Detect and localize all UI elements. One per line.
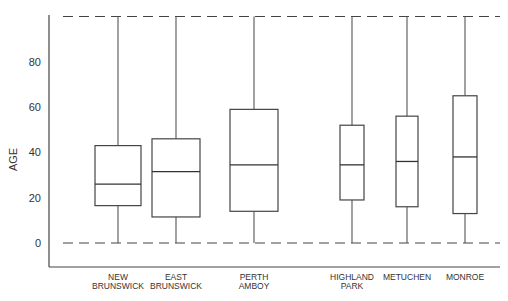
x-category-label: PARK (341, 281, 364, 291)
iqr-box (453, 96, 477, 214)
iqr-box (152, 139, 200, 217)
box-monroe (453, 17, 477, 244)
y-axis-title: AGE (7, 148, 19, 171)
x-category-label: BRUNSWICK (150, 281, 202, 291)
x-category-labels: NEWBRUNSWICKEASTBRUNSWICKPERTHAMBOYHIGHL… (92, 272, 484, 291)
x-category-label: AMBOY (239, 281, 270, 291)
reference-lines (63, 17, 500, 244)
y-tick-label: 40 (29, 146, 41, 158)
box-metuchen (396, 17, 418, 244)
x-category-label: METUCHEN (383, 272, 431, 282)
y-tick-labels: 020406080 (29, 56, 41, 249)
y-tick-label: 0 (35, 237, 41, 249)
y-tick-label: 80 (29, 56, 41, 68)
y-tick-label: 20 (29, 192, 41, 204)
box-perth-amboy (230, 17, 278, 244)
iqr-box (340, 125, 364, 200)
x-category-label: BRUNSWICK (92, 281, 144, 291)
box-new-brunswick (95, 17, 141, 244)
y-tick-label: 60 (29, 101, 41, 113)
box-east-brunswick (152, 17, 200, 244)
boxes-group (95, 17, 477, 244)
iqr-box (230, 109, 278, 211)
x-category-label: MONROE (446, 272, 485, 282)
box-highland-park (340, 17, 364, 244)
box-plot-chart: 020406080 NEWBRUNSWICKEASTBRUNSWICKPERTH… (0, 0, 508, 301)
iqr-box (95, 146, 141, 206)
